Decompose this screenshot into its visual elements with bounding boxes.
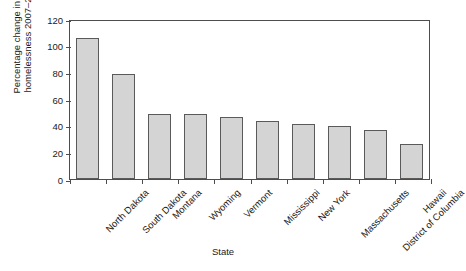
bar bbox=[292, 124, 315, 179]
bar-slot bbox=[250, 21, 286, 179]
x-axis-tick-mark bbox=[70, 179, 71, 184]
bar-slot bbox=[70, 21, 106, 179]
x-axis-tick-mark bbox=[431, 179, 432, 184]
bar bbox=[220, 117, 243, 179]
bar-slot bbox=[321, 21, 357, 179]
bar-slot bbox=[357, 21, 393, 179]
x-axis-tick-label: Massachusetts bbox=[358, 187, 411, 240]
x-axis-tick-mark bbox=[214, 179, 215, 184]
y-axis-title: Percentage change in total homelessness … bbox=[5, 0, 39, 122]
x-axis-tick-label: New York bbox=[315, 187, 351, 223]
plot-area: 020406080100120 bbox=[69, 20, 430, 180]
x-axis-tick-label: Vermont bbox=[242, 187, 275, 220]
x-axis-tick-mark bbox=[106, 179, 107, 184]
bar bbox=[184, 114, 207, 179]
x-axis-tick-mark bbox=[251, 179, 252, 184]
bar-slot bbox=[142, 21, 178, 179]
y-axis-tick-label: 100 bbox=[47, 41, 63, 53]
y-axis-tick-label: 20 bbox=[52, 148, 63, 160]
bar-series bbox=[70, 21, 429, 179]
y-axis-tick-label: 80 bbox=[52, 68, 63, 80]
bar bbox=[112, 74, 135, 179]
x-axis-tick-mark bbox=[359, 179, 360, 184]
bar bbox=[328, 126, 351, 179]
bar-slot bbox=[393, 21, 429, 179]
y-axis-tick-label: 120 bbox=[47, 15, 63, 27]
bar bbox=[364, 130, 387, 179]
x-axis-tick-mark bbox=[287, 179, 288, 184]
bar bbox=[148, 114, 171, 179]
bar-slot bbox=[285, 21, 321, 179]
bar-slot bbox=[106, 21, 142, 179]
y-axis-tick-label: 40 bbox=[52, 121, 63, 133]
x-axis-tick-label: Mississippi bbox=[281, 187, 321, 227]
bar-slot bbox=[214, 21, 250, 179]
x-axis-tick-mark bbox=[395, 179, 396, 184]
bar-slot bbox=[178, 21, 214, 179]
y-axis-tick-label: 60 bbox=[52, 95, 63, 107]
bar bbox=[256, 121, 279, 179]
bar bbox=[76, 38, 99, 179]
x-axis-title: State bbox=[0, 246, 446, 257]
x-axis-tick-mark bbox=[178, 179, 179, 184]
x-axis-tick-mark bbox=[323, 179, 324, 184]
y-axis-tick-label: 0 bbox=[58, 175, 63, 187]
bar bbox=[400, 144, 423, 179]
x-axis-tick-label: Wyoming bbox=[207, 187, 243, 223]
x-axis-tick-mark bbox=[142, 179, 143, 184]
